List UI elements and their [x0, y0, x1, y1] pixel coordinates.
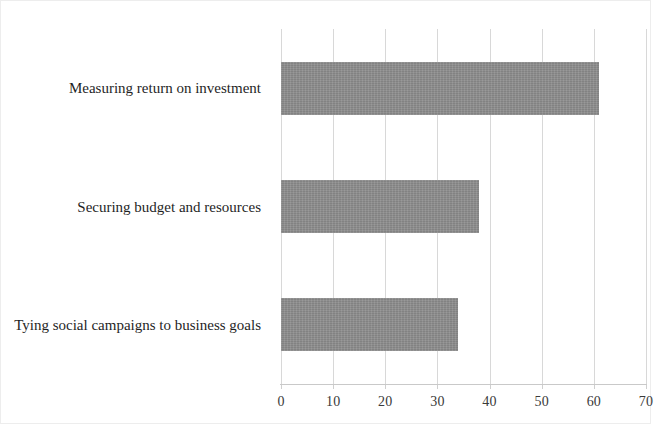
tick-mark-70	[646, 385, 647, 389]
x-tick-label: 60	[574, 393, 614, 411]
bar	[281, 298, 458, 351]
gridline-70	[646, 29, 647, 384]
bar	[281, 62, 599, 115]
tick-mark-50	[542, 385, 543, 389]
value-axis-line	[280, 384, 647, 385]
category-label: Measuring return on investment	[1, 78, 271, 98]
x-tick-label: 0	[261, 393, 301, 411]
x-tick-label: 30	[417, 393, 457, 411]
tick-mark-40	[490, 385, 491, 389]
category-label: Tying social campaigns to business goals	[1, 315, 271, 335]
x-tick-label: 70	[626, 393, 658, 411]
tick-mark-60	[594, 385, 595, 389]
x-tick-label: 50	[522, 393, 562, 411]
x-tick-label: 10	[313, 393, 353, 411]
tick-mark-10	[333, 385, 334, 389]
tick-mark-20	[385, 385, 386, 389]
tick-mark-30	[437, 385, 438, 389]
tick-mark-0	[281, 385, 282, 389]
x-tick-label: 40	[470, 393, 510, 411]
x-tick-label: 20	[365, 393, 405, 411]
category-label: Securing budget and resources	[1, 197, 271, 217]
bar	[281, 180, 479, 233]
